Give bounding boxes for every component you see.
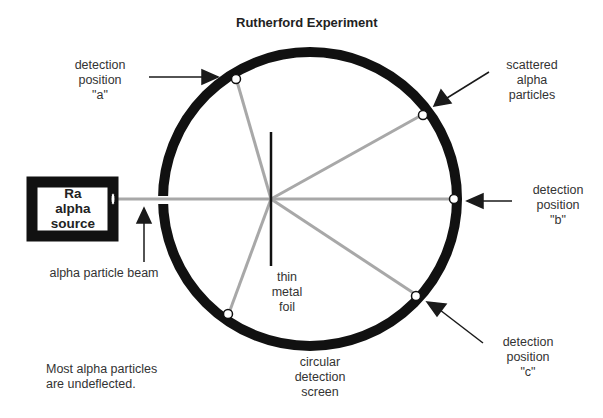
label-circular-detection-screen: circular detection screen — [280, 355, 360, 400]
arrow-scattered — [447, 72, 489, 98]
note-undeflected: Most alpha particles are undeflected. — [46, 362, 216, 392]
label-c-line-1: detection — [486, 335, 570, 350]
label-a-line-2: position — [58, 73, 142, 88]
label-screen-line-1: circular — [280, 355, 360, 370]
label-foil-line-3: foil — [270, 300, 304, 315]
detection-dot-b — [450, 195, 459, 204]
note-line-1: Most alpha particles — [46, 362, 216, 377]
label-b-line-1: detection — [516, 183, 600, 198]
detection-dot-c — [412, 292, 421, 301]
detection-dot-a — [232, 75, 241, 84]
label-detection-position-c: detection position "c" — [486, 335, 570, 380]
label-screen-line-2: detection — [280, 370, 360, 385]
path-to-scattered — [271, 116, 420, 199]
label-scattered-line-1: scattered — [492, 58, 572, 73]
label-scattered-line-3: particles — [492, 88, 572, 103]
diagram-title: Rutherford Experiment — [236, 15, 378, 30]
label-b-line-3: "b" — [516, 213, 600, 228]
arrow-b-head — [467, 194, 483, 208]
arrow-beam-head — [137, 208, 151, 223]
path-to-a — [236, 78, 271, 199]
note-line-2: are undeflected. — [46, 377, 216, 392]
label-b-line-2: position — [516, 198, 600, 213]
label-a-line-3: "a" — [58, 88, 142, 103]
label-c-line-3: "c" — [486, 365, 570, 380]
source-opening — [111, 193, 115, 205]
label-detection-position-b: detection position "b" — [516, 183, 600, 228]
path-to-bottom-left — [229, 199, 271, 313]
arrow-scattered-head — [434, 90, 451, 106]
detection-dot-bottom-left — [224, 310, 233, 319]
source-box-label: Ra alpha source — [38, 186, 108, 231]
label-detection-position-a: detection position "a" — [58, 58, 142, 103]
source-line-3: source — [38, 216, 108, 231]
detection-dot-scattered — [419, 111, 428, 120]
label-foil-line-2: metal — [270, 285, 304, 300]
label-scattered-line-2: alpha — [492, 73, 572, 88]
arrow-c — [440, 310, 483, 343]
label-scattered-alpha-particles: scattered alpha particles — [492, 58, 572, 103]
label-screen-line-3: screen — [280, 385, 360, 400]
label-thin-metal-foil: thin metal foil — [270, 270, 304, 315]
label-foil-line-1: thin — [270, 270, 304, 285]
label-c-line-2: position — [486, 350, 570, 365]
source-line-1: Ra — [38, 186, 108, 201]
arrow-c-head — [427, 302, 446, 316]
source-line-2: alpha — [38, 201, 108, 216]
label-a-line-1: detection — [58, 58, 142, 73]
label-alpha-particle-beam: alpha particle beam — [34, 266, 174, 281]
